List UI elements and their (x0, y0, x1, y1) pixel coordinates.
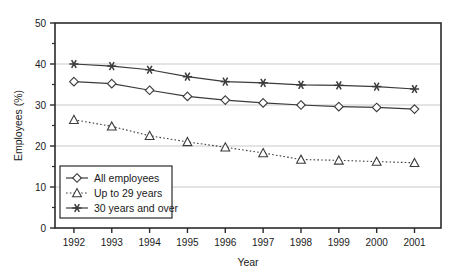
data-point-triangle (297, 155, 306, 163)
data-point-diamond (335, 102, 344, 111)
data-point-diamond (183, 92, 192, 101)
data-point-diamond (259, 99, 268, 108)
series-3 (69, 60, 419, 93)
data-point-diamond (145, 86, 154, 95)
chart-canvas: 0102030405019921993199419951996199719981… (0, 0, 463, 273)
data-point-star (296, 81, 305, 89)
data-point-star (107, 62, 116, 70)
x-tick-label: 1992 (63, 237, 86, 248)
data-point-star (221, 78, 230, 86)
x-tick-label: 1997 (252, 237, 275, 248)
series-2 (70, 115, 419, 166)
data-point-diamond (70, 77, 79, 86)
data-point-star (145, 66, 154, 74)
data-point-star (410, 85, 419, 93)
y-tick-label: 0 (40, 223, 46, 234)
y-tick-label: 20 (35, 141, 47, 152)
x-tick-label: 1999 (328, 237, 351, 248)
data-point-diamond (372, 103, 381, 112)
y-axis-title: Employees (%) (12, 90, 24, 161)
data-point-star (334, 81, 343, 89)
data-point-triangle (183, 138, 192, 146)
series-line (74, 120, 415, 163)
x-tick-label: 1998 (290, 237, 313, 248)
legend-label-1: All employees (94, 172, 159, 184)
x-tick-label: 1996 (214, 237, 237, 248)
y-tick-label: 10 (35, 182, 47, 193)
data-point-star (259, 79, 268, 87)
y-tick-label: 30 (35, 100, 47, 111)
data-point-diamond (221, 96, 230, 105)
y-tick-label: 50 (35, 18, 47, 29)
data-point-triangle (70, 115, 79, 123)
y-tick-label: 40 (35, 59, 47, 70)
legend-label-3: 30 years and over (94, 202, 179, 214)
legend-label-2: Up to 29 years (94, 187, 162, 199)
data-point-star (372, 83, 381, 91)
data-point-diamond (107, 79, 116, 88)
x-tick-label: 1995 (176, 237, 199, 248)
x-tick-label: 1994 (138, 237, 161, 248)
x-tick-label: 2001 (403, 237, 426, 248)
series-line (74, 64, 415, 89)
data-point-triangle (145, 131, 154, 139)
data-point-star (183, 73, 192, 81)
line-chart: 0102030405019921993199419951996199719981… (0, 0, 463, 273)
data-point-triangle (221, 143, 230, 151)
data-point-triangle (372, 157, 381, 165)
data-point-triangle (259, 149, 268, 157)
legend: All employeesUp to 29 years30 years and … (60, 166, 179, 218)
x-tick-label: 1993 (101, 237, 124, 248)
data-point-star (69, 60, 78, 68)
x-axis-title: Year (237, 256, 259, 268)
data-point-triangle (334, 156, 343, 164)
data-point-diamond (410, 105, 419, 114)
data-point-triangle (410, 158, 419, 166)
data-point-diamond (297, 101, 306, 110)
x-tick-label: 2000 (366, 237, 389, 248)
